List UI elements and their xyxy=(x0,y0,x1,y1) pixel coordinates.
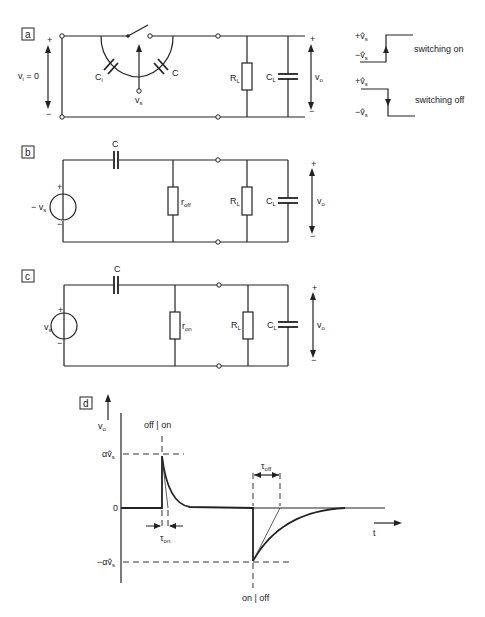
switch-contact xyxy=(148,34,152,38)
tau-on-label: τon xyxy=(160,533,170,544)
terminal-c-top xyxy=(217,283,221,287)
cl-c-label: CL xyxy=(267,320,278,331)
figure-canvas: a xyxy=(0,0,485,617)
zero-label: 0 xyxy=(113,503,118,513)
y-axis-label: vo xyxy=(98,421,107,432)
vo-a-label: vo xyxy=(315,72,324,83)
tau-on-arrow-right-icon xyxy=(154,523,161,529)
switching-off-bottom: −v̂s xyxy=(355,107,368,118)
vo-c-minus: − xyxy=(311,355,316,365)
panel-c: c + − vs C ron RL CL + − vo xyxy=(22,264,326,368)
rl-c-label: RL xyxy=(231,320,242,331)
tau-off-arrow-right-icon xyxy=(272,472,279,478)
cl-b-label: CL xyxy=(266,196,277,207)
tangent-off xyxy=(253,508,280,561)
ci-label: Ci xyxy=(95,72,103,83)
vo-a-arrow-up-icon xyxy=(308,44,314,52)
c-label-a: C xyxy=(172,68,179,78)
rl-b-resistor xyxy=(242,187,252,215)
vo-b-label: vo xyxy=(317,196,326,207)
source-c-label: vs xyxy=(44,322,52,333)
c-c-label: C xyxy=(114,264,121,274)
roff-resistor xyxy=(168,187,178,215)
switching-on-top: +v̂s xyxy=(355,31,368,42)
switching-on-arrow-icon xyxy=(383,46,389,53)
switching-on-waveform: +v̂s −v̂s switching on xyxy=(355,31,464,62)
vo-b-minus: − xyxy=(310,231,315,241)
tau-off-label: τoff xyxy=(261,461,271,472)
switch-pivot xyxy=(126,34,130,38)
c-b-label: C xyxy=(112,139,119,149)
vi-arrow-up-icon xyxy=(45,45,51,53)
panel-d-tag: d xyxy=(83,398,89,409)
ron-resistor xyxy=(170,312,180,339)
tau-on-arrow-left-icon xyxy=(169,523,176,529)
vi-plus: + xyxy=(47,35,52,45)
cl-a-label: CL xyxy=(266,72,277,83)
source-c-minus: − xyxy=(57,338,62,348)
rl-c-resistor xyxy=(243,312,253,339)
source-b-plus: + xyxy=(57,182,62,192)
panel-c-tag: c xyxy=(25,271,30,282)
source-b-minus: − xyxy=(57,219,62,229)
vs-terminal xyxy=(137,89,141,93)
switch-blade[interactable] xyxy=(128,25,148,36)
rl-a-resistor xyxy=(242,63,252,90)
y-axis-arrow-icon xyxy=(105,394,111,402)
switching-on-label: switching on xyxy=(414,44,464,54)
panel-a-tag: a xyxy=(25,29,31,40)
vi-label: vi = 0 xyxy=(18,71,39,82)
trace-on-decay xyxy=(162,456,253,561)
terminal-b-top xyxy=(216,158,220,162)
tau-off-dash xyxy=(253,473,280,506)
panel-a: a xyxy=(18,25,465,119)
terminal-a-bl xyxy=(60,115,64,119)
on-off-label: on | off xyxy=(242,593,270,603)
off-on-label: off | on xyxy=(144,420,171,430)
x-axis-label: t xyxy=(373,528,376,538)
switching-off-label: switching off xyxy=(415,95,465,105)
pos-peak-label: αv̂s xyxy=(102,449,115,460)
vo-c-label: vo xyxy=(317,320,326,331)
vo-a-plus: + xyxy=(310,34,315,44)
vo-b-plus: + xyxy=(311,159,316,169)
vo-b-arrow-up-icon xyxy=(309,168,315,176)
vs-arrow-head-icon xyxy=(136,44,142,52)
vi-arrow-down-icon xyxy=(45,101,51,109)
terminal-c-bottom xyxy=(217,364,221,368)
panel-d: d vo t τon τoff off xyxy=(80,394,402,603)
terminal-a-br xyxy=(216,115,220,119)
x-axis-arrow-icon xyxy=(394,520,402,526)
vo-c-arrow-up-icon xyxy=(310,292,316,300)
tau-off-arrow-left-icon xyxy=(254,472,261,478)
rl-b-label: RL xyxy=(230,196,241,207)
vo-c-plus: + xyxy=(312,283,317,293)
terminal-b-bottom xyxy=(216,240,220,244)
tau-on-dash xyxy=(162,510,168,530)
switching-on-bottom: −v̂s xyxy=(355,50,368,61)
rl-a-label: RL xyxy=(230,73,241,84)
terminal-a-tr xyxy=(216,34,220,38)
trace-pre-on xyxy=(121,456,162,508)
vo-a-minus: − xyxy=(309,106,314,116)
switching-off-top: +v̂s xyxy=(355,76,368,87)
source-b-label: − vs xyxy=(31,202,46,213)
vs-label: vs xyxy=(135,95,143,106)
roff-label: roff xyxy=(181,197,191,208)
vi-minus: − xyxy=(46,109,51,119)
ron-label: ron xyxy=(182,321,192,332)
source-c-plus: + xyxy=(58,305,63,315)
panel-b-tag: b xyxy=(25,147,31,158)
neg-peak-label: −αv̂s xyxy=(97,557,115,568)
terminal-a-tl xyxy=(60,34,64,38)
switching-off-waveform: +v̂s −v̂s switching off xyxy=(355,76,465,118)
panel-b: b + − − vs C roff RL CL + − vo xyxy=(22,139,326,244)
switching-off-arrow-icon xyxy=(385,99,391,106)
